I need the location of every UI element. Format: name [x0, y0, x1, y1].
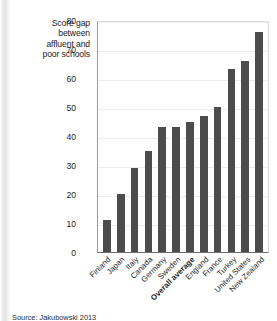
y-axis-tick-label: 50	[52, 103, 76, 113]
bar	[214, 107, 222, 252]
bar	[186, 122, 194, 253]
plot-area	[97, 21, 269, 253]
bar-series	[98, 22, 268, 252]
y-axis-title-line: affluent and	[12, 39, 90, 49]
y-axis-title-line: between	[12, 28, 90, 38]
bar	[172, 127, 180, 252]
bar-slot	[169, 22, 183, 252]
bar-slot	[141, 22, 155, 252]
bar-slot	[155, 22, 169, 252]
bar-slot	[128, 22, 142, 252]
bar-slot	[224, 22, 238, 252]
y-axis-tick-label: 30	[52, 161, 76, 171]
bar-slot	[183, 22, 197, 252]
bar-slot	[197, 22, 211, 252]
bar	[158, 127, 166, 252]
x-axis-tick-labels: FinlandJapanItalyCanadaGermanySwedenOver…	[97, 253, 269, 319]
y-axis-tick-label: 80	[52, 16, 76, 26]
y-axis-tick-label: 70	[52, 45, 76, 55]
bar	[241, 61, 249, 252]
y-axis-title-line: Score gap	[12, 18, 90, 28]
bar	[131, 168, 139, 252]
y-axis-tick-label: 10	[52, 219, 76, 229]
y-axis-tick-label: 0	[52, 248, 76, 258]
bar	[200, 116, 208, 252]
bar-slot	[114, 22, 128, 252]
bar-slot	[211, 22, 225, 252]
bar	[117, 194, 125, 252]
bar-slot	[252, 22, 266, 252]
y-axis-tick-label: 40	[52, 132, 76, 142]
y-axis-tick-label: 60	[52, 74, 76, 84]
bar	[255, 32, 263, 252]
bar	[103, 220, 111, 252]
bar-slot	[238, 22, 252, 252]
y-axis-title: Score gapbetweenaffluent andpoor schools	[12, 18, 90, 60]
bar	[228, 69, 236, 252]
bar	[145, 151, 153, 253]
bar-chart-figure: Score gapbetweenaffluent andpoor schools…	[0, 0, 277, 321]
y-axis-tick-label: 20	[52, 190, 76, 200]
source-note: Source: Jakubowski 2013	[12, 313, 96, 321]
y-axis-title-line: poor schools	[12, 49, 90, 59]
bar-slot	[100, 22, 114, 252]
